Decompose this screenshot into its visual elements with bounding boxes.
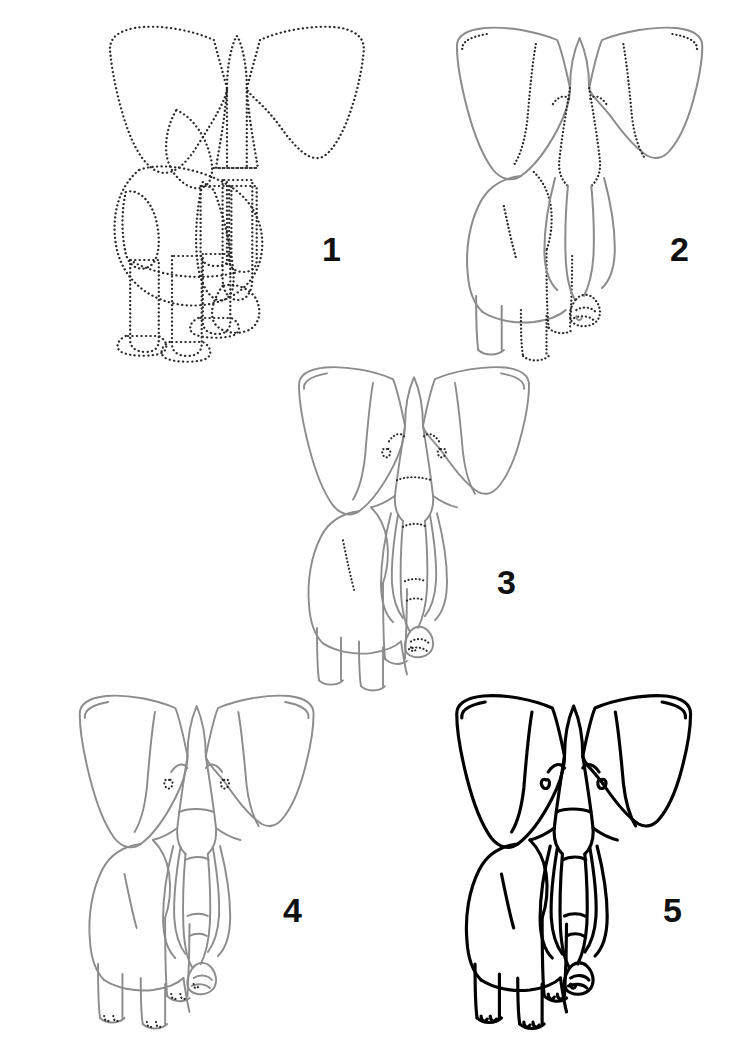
elephant-drawing: [457, 28, 702, 361]
outline-head_left: [395, 426, 405, 521]
guide-body_flank: [504, 206, 517, 260]
guide-earL_inner: [462, 34, 487, 50]
outline-head_left: [177, 756, 187, 854]
guide-trunk_ring1: [405, 579, 425, 581]
step-figure-2: [410, 10, 730, 360]
outline-legBR_out: [141, 978, 143, 1024]
guide-legBL_block: [123, 191, 159, 268]
guide-legBL_lower: [130, 260, 159, 352]
step-number-2: 2: [670, 232, 689, 266]
guide-eyeR: [221, 779, 229, 788]
outline-nails_BR: [524, 1022, 539, 1027]
outline-earL_fold: [135, 712, 155, 832]
guide-earL_block: [110, 27, 227, 173]
outline-forehead_wrinkle: [179, 809, 214, 812]
outline-trunk_right: [584, 186, 594, 296]
outline-forehead_wrinkle: [556, 809, 591, 812]
outline-nails_BL: [481, 1016, 496, 1021]
outline-trunk_right: [201, 854, 211, 964]
guide-nails_BR: [147, 1022, 162, 1027]
outline-body_back: [309, 511, 360, 643]
step-number-4: 4: [283, 893, 302, 927]
outline-earR_fold: [238, 712, 258, 826]
step-number-1: 1: [322, 232, 341, 266]
step-figure-4: [35, 678, 340, 1028]
outline-head_dome: [565, 706, 583, 756]
step-number-5: 5: [663, 893, 682, 927]
guide-head_block: [216, 36, 258, 168]
outline-legBR_foot: [361, 686, 385, 690]
step-figure-1: [62, 10, 392, 360]
guide-trunk_tip_fold: [411, 639, 429, 643]
step-number-3: 3: [497, 565, 516, 599]
outline-trunk_right: [418, 521, 427, 628]
outline-trunk_left: [183, 854, 193, 968]
elephant-drawing: [110, 27, 364, 362]
guide-earR_block: [247, 27, 364, 158]
outline-legBR_out: [359, 641, 361, 686]
elephant-drawing: [457, 696, 691, 1029]
outline-trunk_ring2: [567, 934, 584, 936]
outline-earR_outer: [423, 367, 529, 494]
tutorial-sheet: 12345: [0, 0, 744, 1050]
guide-legFL_foot: [549, 328, 572, 333]
outline-trunk_ring2: [190, 934, 207, 936]
guide-body_shoulder: [534, 172, 552, 250]
outline-trunk_tip_fold: [571, 976, 589, 980]
outline-body_shoulder: [371, 507, 388, 583]
outline-earL_fold: [353, 383, 373, 500]
guide-forehead_wrinkle: [397, 477, 431, 480]
outline-earR_outer: [589, 28, 702, 158]
outline-trunk_left: [565, 186, 575, 300]
outline-nails_FL: [548, 994, 563, 999]
guide-eyeL: [382, 449, 390, 458]
outline-cheekR: [216, 828, 240, 840]
outline-legBR_foot: [143, 1024, 167, 1029]
guide-trunk_base_ring: [403, 524, 426, 527]
outline-earR_inner: [662, 702, 685, 718]
guide-shoulder_block: [166, 110, 212, 188]
outline-head_dome: [405, 377, 423, 426]
outline-body_belly: [483, 310, 566, 323]
elephant-drawing: [299, 367, 529, 690]
guide-body_flank: [343, 540, 355, 592]
outline-earR_outer: [206, 696, 314, 826]
outline-tuskR_out: [602, 178, 615, 288]
outline-earL_inner: [462, 702, 485, 718]
outline-body_flank: [124, 874, 136, 928]
outline-head_left: [554, 756, 564, 854]
outline-body_shoulder: [153, 840, 170, 918]
outline-head_dome: [188, 706, 206, 756]
outline-trunk_tip_fold: [194, 976, 212, 980]
step-figure-3: [255, 350, 555, 690]
guide-eyeL: [164, 779, 172, 788]
guide-trunkfoot_block: [212, 285, 259, 333]
guide-head_left: [559, 88, 570, 186]
guide-body_circle: [115, 166, 263, 305]
outline-earR_fold: [615, 712, 635, 826]
outline-trunk_ring1: [565, 914, 585, 916]
outline-trunk_base_ring: [562, 857, 585, 860]
outline-cheekR: [433, 496, 457, 508]
outline-body_belly: [104, 978, 183, 991]
outline-body_flank: [501, 874, 513, 928]
outline-earR_inner: [501, 373, 524, 389]
outline-trunk_right: [578, 854, 588, 964]
outline-cheekR: [593, 828, 617, 840]
outline-trunk_base_ring: [185, 857, 208, 860]
outline-cheekL: [371, 496, 395, 508]
guide-earR_inner: [672, 34, 697, 50]
guide-nails_BL: [104, 1016, 119, 1021]
outline-earR_fold: [455, 383, 475, 494]
outline-head_dome: [570, 38, 589, 88]
outline-cheekL: [153, 828, 177, 840]
guide-trunk_ring2: [407, 598, 424, 600]
outline-earL_inner: [304, 373, 327, 389]
guide-eyeR: [438, 449, 446, 458]
outline-body_back: [467, 176, 521, 312]
step-figure-5: [412, 678, 717, 1028]
outline-body_belly: [323, 641, 401, 653]
outline-earL_fold: [512, 712, 532, 832]
outline-legBL_foot: [100, 1018, 124, 1023]
guide-nails_FL: [171, 994, 186, 999]
